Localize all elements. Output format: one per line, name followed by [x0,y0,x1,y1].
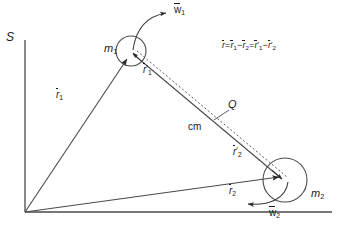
mass-m1-label: m1 [104,43,117,56]
two-body-vector-diagram [0,0,345,233]
vector-equation: r=r1−r2=r′1−r′2 [222,41,276,51]
mass-m1-label-sub: 1 [113,47,117,56]
spin-w1-label-sub: 1 [181,9,185,16]
vector-r1-label-sub: 1 [59,94,63,101]
vector-r2-line [25,177,279,212]
spin-w2-label: w2 [269,208,280,220]
vector-r1-prime-text: r [143,64,146,75]
mass-m1-label-text: m [104,42,113,54]
spin-w2-label-text: w [269,207,276,218]
vector-r2-prime-text: r [233,146,236,157]
point-q-label: Q [228,99,237,110]
vector-r2-label: r2 [229,186,236,198]
separation-line [133,54,282,179]
mass-m2-label-text: m [311,187,320,199]
vector-r2-prime-label: r′2 [233,146,242,158]
vector-r1-label-text: r [56,89,59,100]
vector-r2-prime-sub: 2 [238,151,242,158]
mass-m1-circle [116,36,146,66]
vector-r1-line [25,59,127,212]
spin-arrow-w1 [133,13,166,50]
dashed-cm-line [137,51,287,177]
leader-line-q [214,110,229,120]
mass-m2-label-sub: 2 [320,192,324,201]
vector-r1-prime-label: r′1 [143,64,152,76]
spin-w1-label: w1 [174,5,185,17]
reference-frame-label: S [6,31,14,43]
mass-m2-label: m2 [311,188,324,201]
center-of-mass-label: cm [188,122,201,132]
vector-r1-prime-sub: 1 [148,69,152,76]
vector-r1-label: r1 [56,90,63,102]
spin-w2-label-sub: 2 [276,212,280,219]
vector-r2-label-sub: 2 [232,190,236,197]
vector-r2-label-text: r [229,185,232,196]
spin-w1-label-text: w [174,4,181,15]
mass-m2-circle [263,158,307,202]
